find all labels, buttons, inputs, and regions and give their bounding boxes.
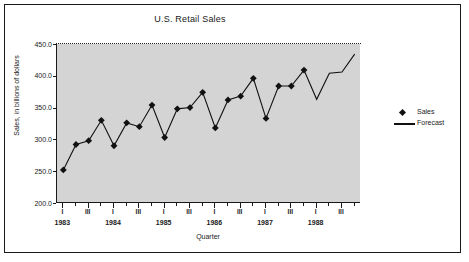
x-quarter-label: III [180, 208, 198, 216]
data-point-marker [174, 105, 181, 112]
x-tick-mark [278, 203, 279, 206]
plot-area [56, 44, 360, 203]
x-quarter-label: III [332, 208, 350, 216]
x-tick-mark [328, 203, 329, 206]
x-quarter-label: I [155, 208, 173, 216]
x-tick-mark [176, 203, 177, 206]
x-quarter-label: III [281, 208, 299, 216]
x-tick-mark [252, 203, 253, 206]
y-tick-label: 250.0 [18, 168, 52, 175]
legend-item-forecast: Forecast [394, 118, 452, 129]
y-tick-mark [53, 44, 56, 45]
y-tick-label: 300.0 [18, 136, 52, 143]
x-tick-mark [202, 203, 203, 206]
x-year-label: 1986 [200, 219, 228, 227]
x-tick-mark [227, 203, 228, 206]
x-year-label: 1985 [150, 219, 178, 227]
data-point-marker [111, 142, 118, 149]
forecast-line [63, 54, 354, 170]
x-quarter-label: I [104, 208, 122, 216]
x-tick-mark [126, 203, 127, 206]
x-tick-mark [75, 203, 76, 206]
x-tick-mark [303, 203, 304, 206]
chart-title: U.S. Retail Sales [0, 14, 380, 24]
legend-label-forecast: Forecast [417, 119, 444, 126]
y-axis-title: Sales, in billions of dollars [13, 31, 20, 161]
x-quarter-label: III [79, 208, 97, 216]
x-tick-mark [100, 203, 101, 206]
x-quarter-label: I [256, 208, 274, 216]
data-point-marker [237, 93, 244, 100]
x-quarter-label: III [231, 208, 249, 216]
data-point-marker [149, 102, 156, 109]
data-point-marker [250, 75, 257, 82]
y-tick-label: 200.0 [18, 200, 52, 207]
data-point-marker [85, 137, 92, 144]
y-tick-mark [53, 139, 56, 140]
data-point-marker [161, 134, 168, 141]
legend-item-sales: Sales [394, 107, 452, 118]
x-year-label: 1988 [302, 219, 330, 227]
data-point-marker [225, 97, 232, 104]
data-point-marker [212, 125, 219, 132]
x-year-label: 1987 [251, 219, 279, 227]
data-point-marker [263, 115, 270, 122]
y-tick-label: 350.0 [18, 104, 52, 111]
y-tick-label: 400.0 [18, 72, 52, 79]
data-point-marker [73, 141, 80, 148]
y-tick-mark [53, 203, 56, 204]
legend-label-sales: Sales [417, 108, 435, 115]
x-year-label: 1983 [48, 219, 76, 227]
data-point-marker [60, 167, 67, 174]
y-tick-mark [53, 108, 56, 109]
sales-markers [60, 67, 307, 174]
diamond-marker-icon [394, 107, 414, 118]
chart-screenshot: U.S. Retail Sales 450.0400.0350.0300.025… [0, 0, 469, 262]
x-quarter-label: I [53, 208, 71, 216]
x-axis-title: Quarter [56, 233, 360, 240]
data-point-marker [275, 83, 282, 90]
series-plot [57, 44, 361, 203]
y-tick-mark [53, 76, 56, 77]
y-tick-label: 450.0 [18, 41, 52, 48]
y-axis-tick-labels: 450.0400.0350.0300.0250.0200.0 [14, 0, 52, 262]
x-quarter-label: I [205, 208, 223, 216]
data-point-marker [136, 123, 143, 130]
x-quarter-label: III [129, 208, 147, 216]
x-tick-mark [354, 203, 355, 206]
x-quarter-label: I [307, 208, 325, 216]
y-tick-mark [53, 171, 56, 172]
x-tick-mark [151, 203, 152, 206]
chart-legend: Sales Forecast [394, 107, 452, 132]
data-point-marker [98, 117, 105, 124]
x-year-label: 1984 [99, 219, 127, 227]
data-point-marker [123, 119, 130, 126]
line-marker-icon [394, 118, 414, 129]
